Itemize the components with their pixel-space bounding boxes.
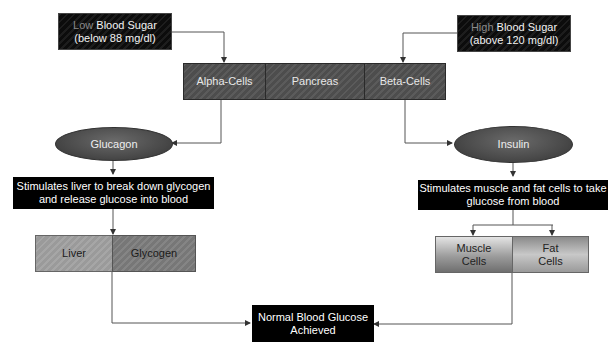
high-title: Blood Sugar xyxy=(497,21,558,33)
fat-line2: Cells xyxy=(538,255,562,268)
muscle-line1: Muscle xyxy=(457,242,492,255)
normal-glucose-box: Normal Blood Glucose Achieved xyxy=(252,305,374,342)
alpha-cells-label: Alpha-Cells xyxy=(196,75,252,88)
insulin-action-line2: glucose from blood xyxy=(467,195,560,208)
pancreas-box: Pancreas xyxy=(265,63,365,100)
liver-action-line1: Stimulates liver to break down glycogen xyxy=(17,180,211,193)
beta-cells-label: Beta-Cells xyxy=(380,75,431,88)
liver-box: Liver xyxy=(35,235,113,272)
insulin-action-line1: Stimulates muscle and fat cells to take xyxy=(419,182,606,195)
result-line2: Achieved xyxy=(290,324,335,337)
fat-cells-box: Fat Cells xyxy=(512,236,589,273)
insulin-ellipse: Insulin xyxy=(454,126,573,163)
liver-action-line2: and release glucose into blood xyxy=(39,193,188,206)
pancreas-label: Pancreas xyxy=(292,75,338,88)
high-detail: (above 120 mg/dl) xyxy=(470,34,559,47)
fat-line1: Fat xyxy=(543,242,559,255)
liver-action-box: Stimulates liver to break down glycogen … xyxy=(13,177,214,209)
high-prefix: High xyxy=(471,21,494,33)
muscle-cells-box: Muscle Cells xyxy=(435,236,513,273)
glycogen-box: Glycogen xyxy=(112,235,196,272)
insulin-label: Insulin xyxy=(498,138,530,151)
glycogen-label: Glycogen xyxy=(131,247,177,260)
low-detail: (below 88 mg/dl) xyxy=(74,32,155,45)
alpha-cells-box: Alpha-Cells xyxy=(183,63,266,100)
glucagon-label: Glucagon xyxy=(90,138,137,151)
beta-cells-box: Beta-Cells xyxy=(364,63,446,100)
glucagon-ellipse: Glucagon xyxy=(55,127,173,161)
low-blood-sugar-box: Low Blood Sugar (below 88 mg/dl) xyxy=(58,13,172,50)
result-line1: Normal Blood Glucose xyxy=(258,311,368,324)
liver-label: Liver xyxy=(62,247,86,260)
muscle-line2: Cells xyxy=(462,255,486,268)
low-prefix: Low xyxy=(73,19,93,31)
high-blood-sugar-box: High Blood Sugar (above 120 mg/dl) xyxy=(457,15,571,52)
low-title: Blood Sugar xyxy=(96,19,157,31)
insulin-action-box: Stimulates muscle and fat cells to take … xyxy=(418,180,608,210)
